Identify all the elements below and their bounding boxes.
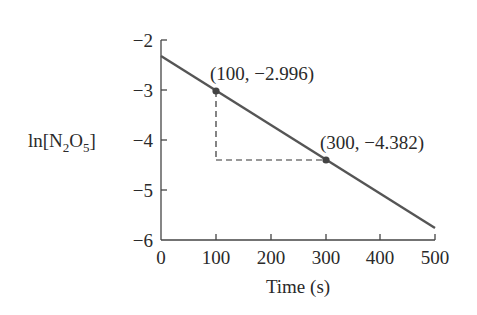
y-tick-labels: −2 −3 −4 −5 −6	[133, 30, 154, 251]
svg-text:200: 200	[257, 247, 286, 268]
svg-text:−5: −5	[133, 180, 153, 201]
data-point-100	[212, 87, 219, 94]
point-label-1: (100, −2.996)	[210, 63, 314, 85]
svg-text:−4: −4	[133, 130, 154, 151]
svg-text:400: 400	[366, 247, 395, 268]
svg-text:−3: −3	[133, 80, 153, 101]
svg-text:0: 0	[156, 247, 166, 268]
svg-text:300: 300	[312, 247, 341, 268]
svg-text:500: 500	[421, 247, 450, 268]
x-tick-labels: 0 100 200 300 400 500	[156, 247, 449, 268]
chart: (100, −2.996) (300, −4.382) −2 −3 −4 −5 …	[0, 0, 477, 315]
data-point-300	[322, 156, 329, 163]
svg-text:100: 100	[202, 247, 231, 268]
svg-text:−6: −6	[133, 230, 153, 251]
y-axis-label: ln[N2O5]	[28, 130, 96, 155]
svg-text:−2: −2	[133, 30, 153, 51]
point-label-2: (300, −4.382)	[320, 132, 424, 154]
x-axis-label: Time (s)	[266, 276, 330, 298]
